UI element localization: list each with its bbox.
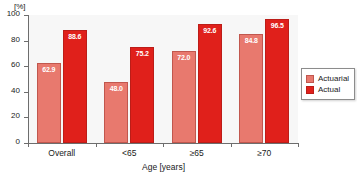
bar-value-label: 96.5 bbox=[271, 22, 284, 29]
bar-actuarial: 62.9 bbox=[37, 63, 61, 144]
bar-value-label: 92.6 bbox=[203, 27, 216, 34]
bar-actual: 92.6 bbox=[198, 24, 222, 143]
bar-actual: 75.2 bbox=[130, 47, 154, 143]
x-axis-category-label: ≥65 bbox=[190, 148, 204, 158]
x-axis-tick-mark bbox=[28, 143, 29, 147]
legend: ActuarialActual bbox=[301, 68, 355, 100]
bar-fill bbox=[37, 63, 61, 144]
legend-item: Actuarial bbox=[306, 73, 349, 84]
bar-actuarial: 72.0 bbox=[172, 51, 196, 143]
bar-group: 72.092.6 bbox=[172, 15, 222, 143]
y-axis-tick-label: 40 bbox=[11, 86, 20, 95]
bar-actual: 88.6 bbox=[63, 30, 87, 143]
y-axis-tick-mark bbox=[24, 41, 28, 42]
bar-fill bbox=[239, 34, 263, 143]
y-axis-tick-mark bbox=[24, 66, 28, 67]
bar-value-label: 48.0 bbox=[110, 85, 123, 92]
bar-actuarial: 84.8 bbox=[239, 34, 263, 143]
y-axis-tick-label: 100 bbox=[7, 9, 20, 18]
bar-chart: [%] 62.988.648.075.272.092.684.896.5 020… bbox=[0, 0, 357, 180]
bar-actual: 96.5 bbox=[265, 19, 289, 143]
y-axis-tick-label: 80 bbox=[11, 35, 20, 44]
bar-value-label: 84.8 bbox=[245, 37, 258, 44]
y-axis-tick-label: 0 bbox=[16, 137, 20, 146]
legend-swatch bbox=[306, 75, 314, 83]
y-axis-tick-label: 20 bbox=[11, 111, 20, 120]
bar-fill bbox=[265, 19, 289, 143]
x-axis-category-label: ≥70 bbox=[257, 148, 271, 158]
bar-value-label: 72.0 bbox=[177, 54, 190, 61]
bar-value-label: 62.9 bbox=[42, 66, 55, 73]
bar-value-label: 75.2 bbox=[136, 50, 149, 57]
bar-group: 62.988.6 bbox=[37, 15, 87, 143]
bar-fill bbox=[63, 30, 87, 143]
bar-value-label: 88.6 bbox=[68, 33, 81, 40]
x-axis-category-label: Overall bbox=[48, 148, 75, 158]
bar-fill bbox=[130, 47, 154, 143]
bar-actuarial: 48.0 bbox=[104, 82, 128, 143]
bar-fill bbox=[172, 51, 196, 143]
x-axis-tick-mark bbox=[163, 143, 164, 147]
x-axis-tick-mark bbox=[298, 143, 299, 147]
legend-label: Actual bbox=[318, 85, 340, 94]
bars-layer: 62.988.648.075.272.092.684.896.5 bbox=[28, 15, 298, 143]
x-axis-tick-mark bbox=[231, 143, 232, 147]
bar-group: 84.896.5 bbox=[239, 15, 289, 143]
plot-area: 62.988.648.075.272.092.684.896.5 bbox=[28, 15, 298, 143]
legend-swatch bbox=[306, 86, 314, 94]
legend-item: Actual bbox=[306, 84, 349, 95]
y-axis-line bbox=[28, 15, 29, 144]
y-axis-tick-label: 60 bbox=[11, 60, 20, 69]
y-axis-tick-mark bbox=[24, 92, 28, 93]
x-axis-tick-mark bbox=[96, 143, 97, 147]
bar-group: 48.075.2 bbox=[104, 15, 154, 143]
bar-fill bbox=[198, 24, 222, 143]
x-axis-category-label: <65 bbox=[122, 148, 136, 158]
y-axis-tick-mark bbox=[24, 117, 28, 118]
x-axis-title: Age [years] bbox=[28, 162, 299, 172]
legend-label: Actuarial bbox=[318, 74, 349, 83]
y-axis-tick-mark bbox=[24, 15, 28, 16]
